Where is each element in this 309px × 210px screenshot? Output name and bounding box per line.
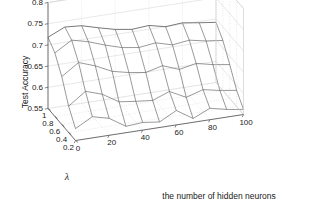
figure-container: 0.550.60.650.70.750.80.20.40.60.81020406… [0, 0, 309, 210]
surface-mesh [48, 22, 244, 128]
y-axis-title: λ [64, 171, 70, 182]
tick-label: 60 [174, 128, 183, 137]
tick-label: 0.6 [49, 127, 61, 136]
surface-plot-svg: 0.550.60.650.70.750.80.20.40.60.81020406… [0, 0, 309, 210]
tick-label: 0.8 [32, 0, 44, 7]
tick-label: 0.8 [42, 119, 54, 128]
tick-label: 80 [208, 123, 217, 132]
tick-label: 0.6 [32, 83, 44, 92]
tick-label: 1 [42, 111, 47, 120]
tick-label: 100 [239, 118, 253, 127]
tick-label: 0 [76, 144, 81, 153]
tick-label: 0.75 [27, 19, 43, 28]
tick-label: 0.2 [63, 143, 75, 152]
z-axis-title: Test Accuracy [20, 55, 30, 108]
tick-label: 0.4 [56, 135, 68, 144]
tick-label: 40 [141, 133, 150, 142]
tick-label: 20 [107, 138, 116, 147]
x-axis-title: the number of hidden neurons [162, 191, 275, 201]
tick-label: 0.7 [32, 41, 44, 50]
